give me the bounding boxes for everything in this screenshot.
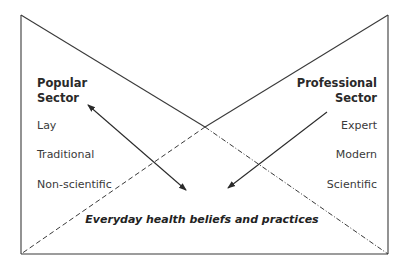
professional-sector-title-line1: Professional [297, 76, 377, 91]
professional-attr-modern: Modern [336, 148, 377, 161]
popular-attr-non-scientific: Non-scientific [37, 178, 112, 191]
diagram-canvas [0, 0, 404, 267]
professional-arrow [228, 112, 327, 188]
popular-attr-lay: Lay [37, 119, 56, 132]
popular-sector-title-line2: Sector [37, 91, 79, 106]
popular-sector-title-line1: Popular [37, 76, 87, 91]
everyday-health-beliefs-label: Everyday health beliefs and practices [0, 213, 404, 226]
professional-attr-scientific: Scientific [327, 178, 377, 191]
professional-boundary-solid [205, 15, 388, 127]
professional-sector-title-line2: Sector [335, 91, 377, 106]
popular-boundary-solid [21, 15, 205, 127]
popular-attr-traditional: Traditional [37, 148, 94, 161]
professional-attr-expert: Expert [341, 119, 377, 132]
